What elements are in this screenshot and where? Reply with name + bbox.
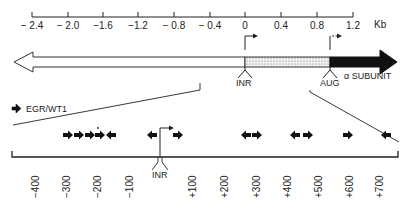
detail-inr-label: INR [152, 170, 168, 180]
inr-label: INR [236, 78, 252, 88]
position-tick-label: +700 [374, 175, 385, 198]
transcription-start-arrow-inr [245, 34, 258, 51]
detail-transcription-start-arrow [160, 126, 174, 158]
egr-wt1-site-right-icon [85, 131, 95, 140]
egr-wt1-site-right-icon [63, 131, 73, 140]
position-tick-label: +400 [282, 175, 293, 198]
detail-baseline [12, 151, 398, 157]
kb-tick-label: − 0.4 [199, 20, 222, 31]
kb-scale-axis: − 2.4− 2.0−1.6−1.2− 0.8− 0.400.40.81.2 K… [21, 12, 387, 31]
alpha-subunit-label: α SUBUNIT [344, 71, 392, 81]
egr-wt1-arrow-icon [12, 104, 21, 113]
position-tick-label: −400 [30, 175, 41, 198]
kb-tick-label: 0 [242, 20, 248, 31]
upstream-hollow-arrow [14, 52, 245, 72]
position-tick-label: +600 [344, 175, 355, 198]
kb-tick-label: −1.6 [93, 20, 113, 31]
position-tick-label: +200 [219, 175, 230, 198]
utr-dotted-segment [245, 57, 330, 67]
position-tick-label: −100 [124, 175, 135, 198]
kb-tick-label: −1.2 [128, 20, 148, 31]
position-tick-label: +500 [313, 175, 324, 198]
kb-tick-label: − 2.4 [21, 20, 44, 31]
kb-tick-label: 1.2 [346, 20, 360, 31]
position-tick-label: −300 [61, 175, 72, 198]
egr-wt1-site-left-icon [106, 131, 116, 140]
gene-map-arrow [14, 50, 397, 74]
kb-tick-label: 0.4 [274, 20, 288, 31]
egr-wt1-site-right-icon [343, 131, 353, 140]
egr-wt1-site-right-icon [303, 131, 313, 140]
kb-unit-label: Kb [374, 19, 387, 30]
detail-inr-marker: INR [152, 157, 168, 180]
egr-wt1-site-left-icon [290, 131, 300, 140]
kb-tick-label: − 0.8 [163, 20, 186, 31]
site-dot [97, 127, 99, 129]
position-tick-label: +300 [251, 175, 262, 198]
egr-wt1-site-left-icon [381, 131, 391, 140]
legend: EGR/WT1 [12, 104, 67, 114]
egr-wt1-site-right-icon [95, 131, 105, 140]
promoter-diagram: − 2.4− 2.0−1.6−1.2− 0.8− 0.400.40.81.2 K… [0, 0, 411, 208]
inr-marker: INR [236, 67, 252, 88]
kb-tick-label: − 2.0 [57, 20, 80, 31]
aug-marker: AUG [320, 67, 340, 88]
egr-wt1-site-right-icon [74, 131, 84, 140]
legend-label: EGR/WT1 [26, 104, 67, 114]
egr-wt1-site-right-icon [173, 131, 183, 140]
transcription-start-arrow-aug [330, 34, 342, 51]
egr-wt1-site-left-icon [241, 131, 251, 140]
egr-wt1-site-right-icon [252, 131, 262, 140]
egr-wt1-site-left-icon [147, 131, 157, 140]
kb-tick-label: 0.8 [310, 20, 324, 31]
aug-label: AUG [320, 78, 340, 88]
position-tick-label: −200 [92, 175, 103, 198]
detail-map: INR −400−300−200−100+100+200+300+400+500… [12, 126, 398, 199]
position-tick-label: +100 [187, 175, 198, 198]
